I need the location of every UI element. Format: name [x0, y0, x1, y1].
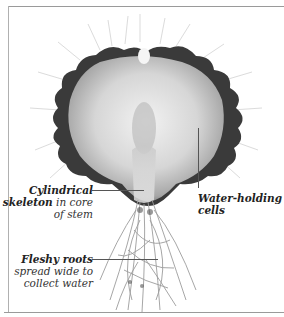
leader-line-roots [92, 259, 158, 260]
skeleton-core [132, 145, 156, 203]
label-skeleton-line3: of stem [3, 208, 93, 220]
label-skeleton-line2-plain: in core [53, 196, 93, 208]
label-cylindrical-skeleton: Cylindrical skeleton in core of stem [3, 184, 93, 220]
label-skeleton-line1: Cylindrical [29, 184, 93, 196]
root-shadows [128, 207, 153, 288]
leader-line-skeleton [92, 190, 144, 191]
label-roots-line1: Fleshy roots [14, 253, 93, 265]
leader-line-water [198, 128, 199, 188]
label-water-line2: cells [198, 204, 282, 216]
label-roots-line2: spread wide to [14, 265, 93, 277]
roots [100, 200, 196, 312]
label-water-line1: Water-holding [198, 192, 282, 204]
label-water-holding-cells: Water-holding cells [198, 192, 282, 216]
label-fleshy-roots: Fleshy roots spread wide to collect wate… [14, 253, 93, 289]
label-roots-line3: collect water [14, 277, 93, 289]
label-skeleton-line2-bold: skeleton [3, 196, 53, 208]
